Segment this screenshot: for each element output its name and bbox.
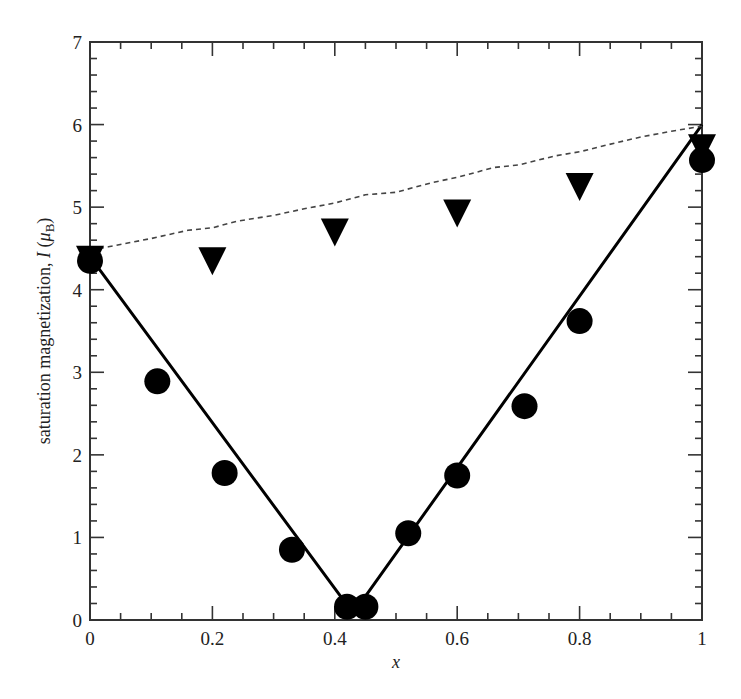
triangle-marker [566, 173, 594, 201]
axis-tick-labels: 00.20.40.60.8101234567 [73, 32, 707, 649]
dashed-theory-line [90, 126, 702, 250]
x-tick-label: 1 [697, 628, 707, 649]
triangle-marker [443, 199, 471, 227]
x-tick-label: 0.6 [445, 628, 469, 649]
x-tick-label: 0.8 [568, 628, 592, 649]
triangle-marker [321, 218, 349, 246]
y-tick-label: 6 [73, 115, 83, 136]
y-axis-label: saturation magnetization, I (μB) [34, 218, 57, 445]
y-tick-label: 2 [73, 445, 83, 466]
circle-marker [144, 368, 170, 394]
chart: 00.20.40.60.8101234567 x saturation magn… [0, 0, 741, 699]
circle-marker [279, 537, 305, 563]
x-tick-label: 0.4 [323, 628, 347, 649]
y-tick-label: 3 [73, 362, 83, 383]
series-markers [76, 134, 716, 620]
y-tick-label: 7 [73, 32, 83, 53]
circle-marker [395, 520, 421, 546]
y-axis-label-unit-open: ( [34, 241, 55, 252]
circle-marker [444, 463, 470, 489]
series-lines [90, 125, 702, 614]
y-axis-label-main: saturation magnetization, [34, 258, 54, 444]
circle-marker [512, 393, 538, 419]
x-tick-label: 0.2 [201, 628, 225, 649]
y-axis-label-sub: B [42, 223, 57, 232]
y-axis-label-mu: μ [34, 232, 54, 242]
y-tick-label: 4 [73, 280, 83, 301]
y-axis-label-unit-close: ) [34, 218, 55, 224]
y-tick-label: 5 [73, 197, 83, 218]
y-tick-label: 1 [73, 527, 83, 548]
circle-marker [212, 460, 238, 486]
x-axis-label: x [391, 652, 400, 672]
x-tick-label: 0 [85, 628, 95, 649]
circle-marker [567, 308, 593, 334]
solid-fit-line [90, 125, 702, 614]
circle-marker [352, 594, 378, 620]
triangle-marker [198, 247, 226, 275]
y-tick-label: 0 [73, 610, 83, 631]
